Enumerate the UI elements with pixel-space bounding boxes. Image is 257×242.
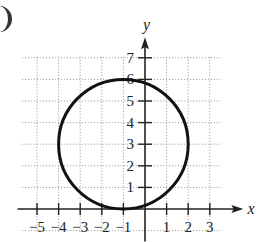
x-axis-label: x <box>247 200 255 217</box>
x-tick-label: 3 <box>206 219 214 235</box>
x-tick-label: 2 <box>184 219 192 235</box>
x-tick-label: −5 <box>29 219 45 235</box>
y-tick-label: 4 <box>127 115 135 131</box>
y-tick-label: 3 <box>127 136 135 152</box>
y-tick-label: 5 <box>127 93 135 109</box>
grid-lines <box>22 57 221 232</box>
x-tick-label: −2 <box>94 219 110 235</box>
x-tick-label: −1 <box>115 219 131 235</box>
y-tick-label: 7 <box>127 50 135 66</box>
y-tick-label: 2 <box>127 158 135 174</box>
y-tick-label: 1 <box>127 179 135 195</box>
x-tick-label: −3 <box>72 219 88 235</box>
x-tick-label: 1 <box>163 219 171 235</box>
y-axis-label: y <box>141 16 151 34</box>
x-tick-label: −4 <box>51 219 67 235</box>
coordinate-plane: −5−4−3−2−11231234567 x y <box>0 0 257 242</box>
tick-labels: −5−4−3−2−11231234567 <box>29 50 214 235</box>
